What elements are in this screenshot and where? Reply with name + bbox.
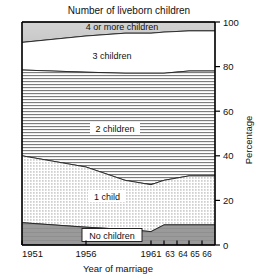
- band-label-no-children: No children: [89, 231, 135, 241]
- band-label-one-child: 1 child: [94, 192, 120, 202]
- chart-container: Number of liveborn children 4 or more ch…: [0, 0, 259, 279]
- band-label-four-or-more: 4 or more children: [86, 22, 159, 32]
- band-label-one-child-group: 1 child: [88, 190, 126, 202]
- band-label-two-children: 2 children: [95, 124, 134, 134]
- x-tick-label-1951: 1951: [22, 248, 43, 259]
- y-tick-label-0: 0: [223, 240, 228, 251]
- x-tick-label-1961: 1961: [140, 248, 161, 259]
- x-tick-label-66: 66: [202, 249, 212, 259]
- y-tick-label-100: 100: [223, 17, 239, 28]
- y-tick-label-40: 40: [223, 150, 234, 161]
- y-axis-label: Percentage: [243, 116, 254, 165]
- band-label-three-children: 3 children: [92, 51, 131, 61]
- x-tick-label-65: 65: [190, 249, 200, 259]
- x-tick-label-1956: 1956: [75, 248, 96, 259]
- y-tick-label-60: 60: [223, 106, 234, 117]
- x-tick-label-64: 64: [178, 249, 188, 259]
- x-tick-label-63: 63: [165, 249, 175, 259]
- band-label-two-children-group: 2 children: [90, 122, 140, 134]
- stacked-area-chart: Number of liveborn children 4 or more ch…: [0, 0, 259, 279]
- x-axis-label: Year of marriage: [83, 263, 153, 274]
- y-axis-ticks: [215, 22, 220, 245]
- page-title: Number of liveborn children: [68, 5, 190, 16]
- band-label-no-children-group: No children: [82, 229, 142, 242]
- y-tick-label-80: 80: [223, 61, 234, 72]
- y-tick-label-20: 20: [223, 195, 234, 206]
